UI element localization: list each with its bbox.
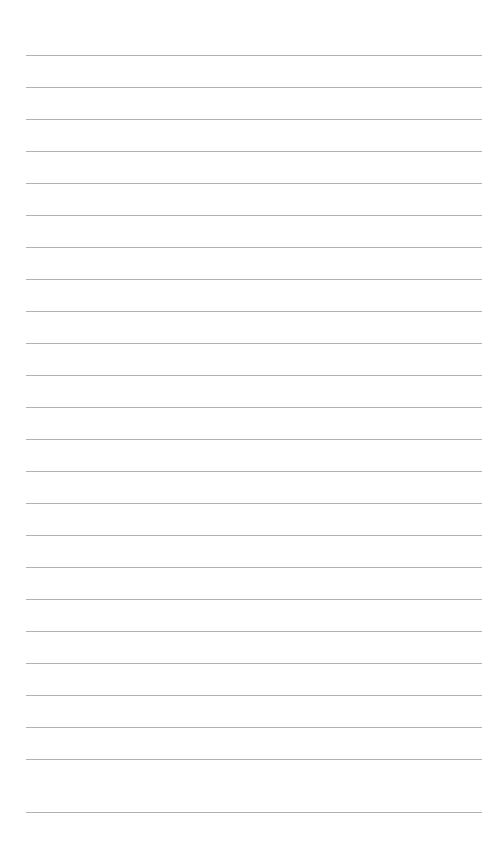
writing-line-row[interactable] xyxy=(26,408,482,439)
rule-line xyxy=(26,812,482,813)
writing-line-row[interactable] xyxy=(26,1,482,55)
writing-line-row[interactable] xyxy=(26,152,482,183)
writing-line-row[interactable] xyxy=(26,504,482,535)
writing-line-row[interactable] xyxy=(26,56,482,87)
writing-line-row[interactable] xyxy=(26,664,482,695)
writing-line-row[interactable] xyxy=(26,632,482,663)
writing-line-row[interactable] xyxy=(26,536,482,567)
writing-line-row[interactable] xyxy=(26,440,482,471)
lined-paper-sheet: Blank Lined Paper A blank sheet of ruled… xyxy=(0,0,498,849)
writing-line-row[interactable] xyxy=(26,248,482,279)
writing-line-row[interactable] xyxy=(26,184,482,215)
writing-line-row[interactable] xyxy=(26,280,482,311)
writing-line-row[interactable] xyxy=(26,760,482,812)
writing-line-row[interactable] xyxy=(26,376,482,407)
writing-line-row[interactable] xyxy=(26,312,482,343)
writing-line-row[interactable] xyxy=(26,696,482,727)
writing-line-row[interactable] xyxy=(26,120,482,151)
writing-line-row[interactable] xyxy=(26,472,482,503)
ruled-writing-area[interactable] xyxy=(0,0,498,849)
writing-line-row[interactable] xyxy=(26,568,482,599)
writing-line-row[interactable] xyxy=(26,600,482,631)
writing-line-row[interactable] xyxy=(26,728,482,759)
writing-line-row[interactable] xyxy=(26,216,482,247)
writing-line-row[interactable] xyxy=(26,344,482,375)
writing-line-row[interactable] xyxy=(26,88,482,119)
